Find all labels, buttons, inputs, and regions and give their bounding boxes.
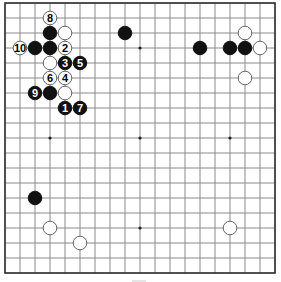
white-stone: [223, 221, 237, 235]
hoshi-point: [138, 226, 141, 229]
white-stone: 4: [58, 71, 72, 85]
black-stone: 5: [73, 56, 87, 70]
black-stone: 3: [58, 56, 72, 70]
black-stone: [28, 41, 42, 55]
black-stone: [43, 41, 57, 55]
white-stone: 8: [43, 11, 57, 25]
hoshi-point: [228, 136, 231, 139]
go-board: 81023564917: [0, 0, 281, 282]
white-stone: [43, 221, 57, 235]
black-stone: [193, 41, 207, 55]
white-stone: 6: [43, 71, 57, 85]
white-stone: [43, 56, 57, 70]
move-number: 2: [62, 42, 68, 54]
black-stone: 1: [58, 101, 72, 115]
white-stone: 2: [58, 41, 72, 55]
black-stone: [43, 26, 57, 40]
move-number: 6: [47, 72, 53, 84]
move-number: 5: [77, 57, 83, 69]
hoshi-point: [138, 136, 141, 139]
hoshi-point: [48, 136, 51, 139]
black-stone: 9: [28, 86, 42, 100]
black-stone: [238, 41, 252, 55]
white-stone: [238, 26, 252, 40]
white-stone: [73, 236, 87, 250]
move-number: 1: [62, 102, 68, 114]
move-number: 8: [47, 12, 53, 24]
black-stone: [223, 41, 237, 55]
move-number: 4: [62, 72, 69, 84]
black-stone: [118, 26, 132, 40]
black-stone: 7: [73, 101, 87, 115]
move-number: 10: [14, 42, 26, 54]
white-stone: [238, 71, 252, 85]
black-stone: [28, 191, 42, 205]
black-stone: [43, 86, 57, 100]
move-number: 3: [62, 57, 68, 69]
white-stone: [58, 26, 72, 40]
white-stone: 10: [13, 41, 27, 55]
white-stone: [58, 86, 72, 100]
hoshi-point: [138, 46, 141, 49]
move-number: 7: [77, 102, 83, 114]
white-stone: [253, 41, 267, 55]
move-number: 9: [32, 87, 38, 99]
